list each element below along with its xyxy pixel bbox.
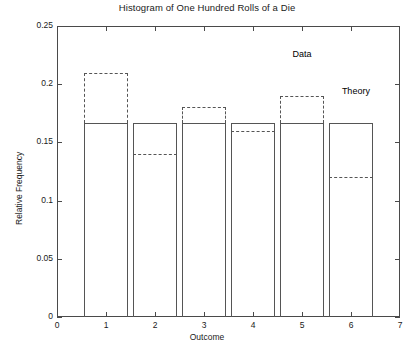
- y-axis-label: Relative Frequency: [14, 152, 24, 225]
- y-tick-mark: [57, 259, 62, 260]
- x-tick-label: 7: [390, 320, 410, 330]
- y-tick-mark-right: [395, 84, 400, 85]
- histogram-bar: [182, 123, 225, 317]
- x-tick-label: 4: [243, 320, 263, 330]
- y-tick-label: 0.2: [10, 78, 53, 88]
- y-tick-label: 0.15: [10, 136, 53, 146]
- x-tick-mark-top: [302, 26, 303, 31]
- histogram-bar: [329, 123, 372, 317]
- x-tick-mark-top: [106, 26, 107, 31]
- histogram-bar: [280, 123, 323, 317]
- y-tick-mark: [57, 142, 62, 143]
- y-tick-mark-right: [395, 259, 400, 260]
- y-tick-mark: [57, 317, 62, 318]
- x-tick-mark-top: [253, 26, 254, 31]
- x-tick-mark-top: [351, 26, 352, 31]
- histogram-bar: [231, 123, 274, 317]
- histogram-bar: [133, 123, 176, 317]
- x-tick-label: 2: [145, 320, 165, 330]
- x-tick-mark-top: [204, 26, 205, 31]
- y-tick-label: 0.25: [10, 20, 53, 30]
- x-tick-label: 5: [292, 320, 312, 330]
- y-tick-label: 0.05: [10, 253, 53, 263]
- annotation-theory: Theory: [332, 86, 380, 96]
- histogram-bar: [84, 123, 127, 317]
- data-outline-box: [182, 107, 225, 122]
- x-tick-label: 1: [96, 320, 116, 330]
- chart-title: Histogram of One Hundred Rolls of a Die: [0, 2, 414, 13]
- y-tick-mark: [57, 26, 62, 27]
- x-tick-mark-top: [155, 26, 156, 31]
- x-axis-label: Outcome: [0, 332, 414, 342]
- y-tick-mark: [57, 84, 62, 85]
- y-tick-mark-right: [395, 26, 400, 27]
- plot-area: [57, 26, 400, 317]
- y-tick-mark-right: [395, 142, 400, 143]
- x-tick-label: 6: [341, 320, 361, 330]
- y-tick-label: 0.1: [10, 195, 53, 205]
- x-tick-label: 0: [47, 320, 67, 330]
- y-tick-mark-right: [395, 317, 400, 318]
- annotation-data: Data: [278, 49, 326, 59]
- data-outline-box: [84, 73, 127, 123]
- data-outline-box: [280, 96, 323, 123]
- y-tick-mark: [57, 201, 62, 202]
- x-tick-label: 3: [194, 320, 214, 330]
- y-tick-mark-right: [395, 201, 400, 202]
- chart-figure: Histogram of One Hundred Rolls of a Die …: [0, 0, 414, 349]
